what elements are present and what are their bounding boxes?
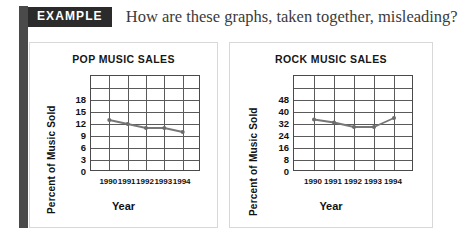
y-axis-tick-label: 16 [271, 143, 289, 152]
series-line [294, 76, 414, 172]
x-axis-tick-label: 1994 [380, 177, 406, 186]
pop-plot-area [90, 75, 200, 171]
y-axis-tick-label: 8 [271, 155, 289, 164]
y-axis-tick-label: 24 [271, 131, 289, 140]
y-axis-tick-label: 12 [68, 119, 86, 128]
data-point-marker [126, 122, 130, 126]
example-badge: EXAMPLE [28, 7, 112, 27]
series-line [91, 76, 201, 172]
y-axis-tick-label: 6 [68, 143, 86, 152]
data-point-marker [107, 118, 111, 122]
y-axis-tick-label: 40 [271, 107, 289, 116]
y-axis-tick-label: 48 [271, 95, 289, 104]
data-point-marker [332, 121, 336, 125]
data-point-marker [372, 125, 376, 129]
rock-chart-title: ROCK MUSIC SALES [230, 53, 432, 65]
example-header: EXAMPLE How are these graphs, taken toge… [28, 6, 458, 28]
pop-x-axis-label: Year [30, 200, 217, 212]
y-axis-tick-label: 32 [271, 119, 289, 128]
rock-music-sales-panel: ROCK MUSIC SALES Percent of Music Sold Y… [229, 42, 433, 228]
data-point-marker [392, 116, 396, 120]
y-axis-tick-label: 0 [68, 167, 86, 176]
y-axis-tick-label: 15 [68, 107, 86, 116]
data-point-marker [144, 126, 148, 130]
y-axis-tick-label: 9 [68, 131, 86, 140]
pop-chart-title: POP MUSIC SALES [30, 53, 217, 65]
pop-y-axis-label: Percent of Music Sold [46, 105, 57, 214]
y-axis-tick-label: 18 [68, 95, 86, 104]
data-point-marker [162, 126, 166, 130]
y-axis-tick-label: 3 [68, 155, 86, 164]
data-point-marker [181, 130, 185, 134]
y-axis-tick-label: 0 [271, 167, 289, 176]
rock-plot-area [293, 75, 413, 171]
pop-music-sales-panel: POP MUSIC SALES Percent of Music Sold Ye… [29, 42, 218, 228]
x-axis-tick-label: 1994 [169, 177, 195, 186]
rock-x-axis-label: Year [230, 200, 432, 212]
example-question-text: How are these graphs, taken together, mi… [126, 7, 458, 27]
data-point-marker [312, 118, 316, 122]
left-accent-bar [19, 6, 28, 228]
data-point-marker [352, 125, 356, 129]
